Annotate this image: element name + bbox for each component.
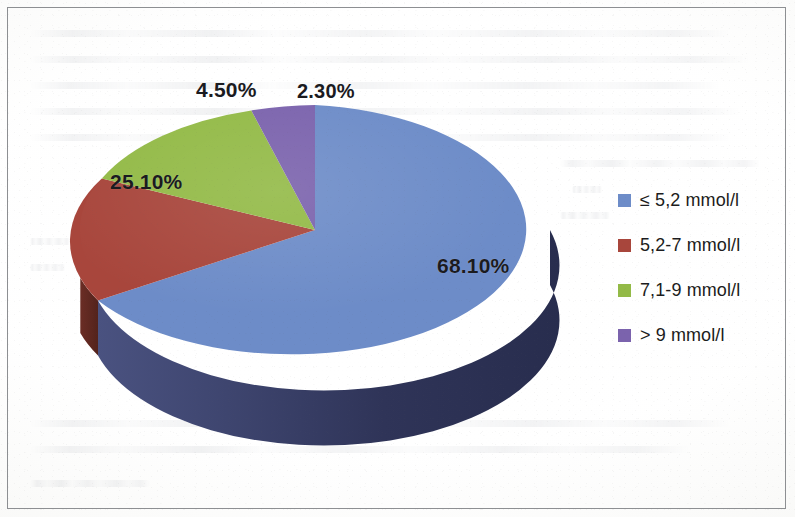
legend-item-label: > 9 mmol/l xyxy=(640,325,725,346)
pie-top-sheen xyxy=(80,105,550,355)
legend-swatch-icon xyxy=(618,329,631,342)
legend-item-3[interactable]: > 9 mmol/l xyxy=(618,313,778,358)
figure-page: 4.50% 2.30% 25.10% 68.10% ≤ 5,2 mmol/l 5… xyxy=(0,0,795,517)
slice-label-blue: 68.10% xyxy=(437,254,509,278)
legend-item-label: 5,2-7 mmol/l xyxy=(640,235,740,256)
legend-swatch-icon xyxy=(618,284,631,297)
legend-item-1[interactable]: 5,2-7 mmol/l xyxy=(618,223,778,268)
slice-label-green: 4.50% xyxy=(196,78,257,102)
slice-label-purple: 2.30% xyxy=(297,80,355,103)
chart-legend: ≤ 5,2 mmol/l 5,2-7 mmol/l 7,1-9 mmol/l >… xyxy=(618,178,778,358)
legend-item-label: ≤ 5,2 mmol/l xyxy=(640,190,739,211)
legend-swatch-icon xyxy=(618,239,631,252)
legend-swatch-icon xyxy=(618,194,631,207)
legend-item-label: 7,1-9 mmol/l xyxy=(640,280,740,301)
slice-label-red: 25.10% xyxy=(110,170,182,194)
legend-item-0[interactable]: ≤ 5,2 mmol/l xyxy=(618,178,778,223)
pie-chart: 4.50% 2.30% 25.10% 68.10% ≤ 5,2 mmol/l 5… xyxy=(0,0,795,517)
legend-item-2[interactable]: 7,1-9 mmol/l xyxy=(618,268,778,313)
